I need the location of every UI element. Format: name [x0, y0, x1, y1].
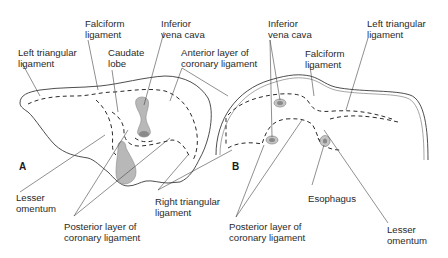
label-left-tri-a: Left triangular	[18, 47, 77, 58]
label-caudate-a: Caudate	[108, 47, 144, 58]
liver-outline-a	[20, 76, 211, 186]
label-ivc-a: Inferior	[161, 18, 192, 29]
label-caudate-a-2: lobe	[108, 58, 126, 69]
panel-a: Falciform ligament Inferior vena cava Le…	[16, 18, 258, 243]
ivc-opening-a	[139, 131, 149, 137]
anterior-coronary-dashed-b	[228, 94, 392, 119]
label-falciform-b: Falciform	[305, 48, 344, 59]
leader-posterior-b1	[236, 145, 264, 217]
liver-ligaments-diagram: Falciform ligament Inferior vena cava Le…	[0, 0, 448, 258]
leader-anterior-b	[182, 68, 228, 96]
label-left-tri-b: Left triangular	[367, 18, 426, 29]
leader-ivc-b1	[270, 40, 280, 100]
leader-lesser-b	[324, 130, 388, 223]
label-falciform-a: Falciform	[85, 18, 124, 29]
leader-right-tri-a1	[158, 155, 188, 190]
label-posterior-a: Posterior layer of	[64, 221, 137, 232]
label-posterior-b-2: coronary ligament	[229, 232, 306, 243]
leader-anterior-a	[170, 68, 182, 101]
label-lesser-b-2: omentum	[387, 235, 427, 246]
ivc-b-upper-inner	[277, 101, 283, 105]
leader-ivc-b2	[270, 40, 272, 137]
panel-letter-a: A	[19, 161, 26, 172]
label-lesser-a: Lesser	[16, 192, 46, 203]
leader-caudate-a	[112, 70, 118, 112]
label-lesser-b: Lesser	[387, 224, 417, 235]
leader-ivc-a	[144, 32, 164, 105]
label-ivc-a-2: vena cava	[161, 29, 205, 40]
label-falciform-a-2: ligament	[85, 29, 122, 40]
liver-outline-b-inner	[220, 78, 424, 160]
label-right-tri: Right triangular	[155, 196, 221, 207]
inner-dashed-a	[135, 138, 155, 142]
label-posterior-b: Posterior layer of	[229, 221, 302, 232]
panel-letter-b: B	[232, 161, 239, 172]
gallbladder-a	[116, 141, 136, 184]
leader-posterior-b2	[236, 120, 302, 217]
posterior-coronary-dashed-a	[96, 100, 116, 155]
leader-lesser-a	[20, 135, 105, 192]
label-ivc-b: Inferior	[268, 18, 299, 29]
leader-left-tri-b	[346, 38, 368, 110]
left-tri-dashed-b	[330, 116, 398, 122]
label-esophagus: Esophagus	[308, 193, 356, 204]
label-lesser-a-2: omentum	[16, 203, 56, 214]
liver-outline-b-outer	[216, 75, 428, 160]
esophagus-b-inner	[323, 138, 327, 143]
leader-esophagus-b	[312, 145, 324, 185]
leader-falciform-b	[310, 66, 314, 96]
label-posterior-a-2: coronary ligament	[64, 232, 141, 243]
leader-falciform-a	[88, 40, 98, 90]
label-anterior-coronary-2: coronary ligament	[181, 58, 258, 69]
label-anterior-coronary: Anterior layer of	[181, 47, 249, 58]
ivc-b-lower-inner	[269, 138, 275, 142]
label-left-tri-a-2: ligament	[18, 58, 55, 69]
label-left-tri-b-2: ligament	[367, 29, 404, 40]
label-falciform-b-2: ligament	[305, 59, 342, 70]
label-right-tri-2: ligament	[155, 207, 192, 218]
inferior-vena-cava-a	[136, 97, 151, 137]
label-ivc-b-2: vena cava	[268, 29, 312, 40]
